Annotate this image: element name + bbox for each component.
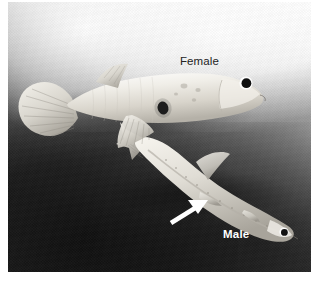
female-eye-pupil xyxy=(242,78,252,88)
male-mouth xyxy=(293,236,298,239)
male-eye-pupil xyxy=(281,229,288,236)
page-margin-top xyxy=(0,0,319,2)
guppy-figure: Female Male xyxy=(0,0,319,285)
fish-illustration-layer xyxy=(8,2,311,272)
female-guppy xyxy=(18,64,265,148)
photograph-plate: Female Male xyxy=(8,2,311,272)
female-caudal-fin xyxy=(18,82,78,136)
page-margin-right xyxy=(311,0,319,285)
page-margin-bottom xyxy=(0,272,319,285)
page-margin-left xyxy=(0,0,8,285)
label-male: Male xyxy=(223,229,249,241)
label-female: Female xyxy=(180,56,219,68)
